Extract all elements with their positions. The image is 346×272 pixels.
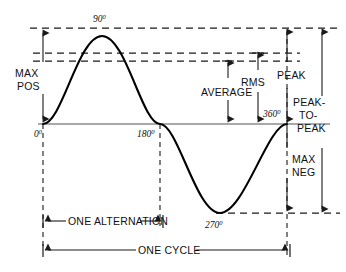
- angle-value-180: 180: [137, 129, 152, 139]
- max-pos-label-line1: MAX: [15, 67, 38, 79]
- angle-label-360: 3600: [262, 108, 281, 120]
- angle-label-90: 900: [93, 13, 107, 25]
- angle-value-270: 270: [205, 220, 220, 230]
- peak-to-peak-label-line1: PEAK-: [293, 96, 326, 108]
- degree-symbol-90: 0: [103, 13, 107, 20]
- peak-to-peak-label-line3: PEAK: [297, 122, 326, 134]
- degree-symbol-270: 0: [219, 219, 223, 226]
- peak-label: PEAK: [277, 69, 306, 81]
- angle-label-180: 1800: [137, 128, 155, 140]
- angle-value-360: 360: [262, 109, 278, 119]
- peak-to-peak-label-line2: TO-: [299, 109, 318, 121]
- one-cycle-label: ONE CYCLE: [138, 244, 200, 256]
- diagram-canvas: MAX POS AVERAGE RMS PEAK MAX NEG PEAK- T…: [0, 0, 346, 272]
- max-pos-label-line2: POS: [17, 80, 40, 92]
- angle-label-270: 2700: [205, 219, 223, 231]
- angle-label-0: 00: [34, 128, 43, 140]
- degree-symbol-360: 0: [277, 108, 281, 115]
- angle-value-90: 90: [93, 14, 103, 24]
- rms-label: RMS: [241, 76, 265, 88]
- max-neg-label-line1: MAX: [292, 153, 315, 165]
- max-neg-label-line2: NEG: [292, 166, 315, 178]
- degree-symbol-0: 0: [39, 128, 43, 135]
- degree-symbol-180: 0: [151, 128, 155, 135]
- sine-wave-diagram: MAX POS AVERAGE RMS PEAK MAX NEG PEAK- T…: [0, 0, 346, 272]
- one-alternation-label: ONE ALTERNATION: [68, 215, 168, 227]
